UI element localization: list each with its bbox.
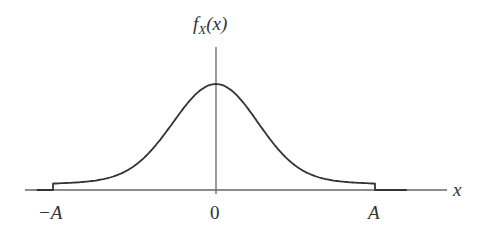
tick-label-neg-a: −A	[38, 202, 63, 223]
tick-label-zero: 0	[210, 202, 220, 223]
x-axis-label: x	[452, 179, 462, 200]
density-plot: fX(x) x −A 0 A	[0, 0, 485, 228]
y-axis-label-arg: (x)	[206, 13, 227, 35]
density-curve	[37, 84, 407, 190]
y-axis-label: fX(x)	[193, 13, 227, 37]
tick-label-pos-a: A	[366, 202, 380, 223]
